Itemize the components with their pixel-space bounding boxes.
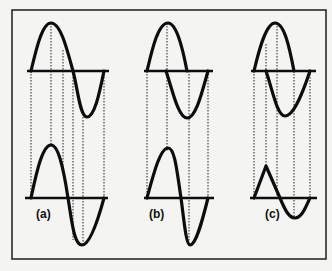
panel-label: (a) [36, 207, 51, 221]
top-sine-wave-negative [266, 71, 310, 116]
panel-label: (b) [149, 207, 164, 221]
panel-b: (b) [144, 23, 214, 245]
waveform-diagram: (a) (b) (c) [0, 0, 332, 271]
figure-frame [12, 10, 326, 259]
panel-a: (a) [25, 23, 109, 245]
panel-label: (c) [265, 207, 280, 221]
bottom-derived-wave [31, 145, 104, 245]
top-sine-wave [254, 23, 294, 71]
top-sine-wave-negative [166, 71, 208, 118]
bottom-derived-wave [147, 148, 208, 245]
bottom-derived-wave [254, 166, 310, 218]
panel-c: (c) [250, 23, 317, 221]
